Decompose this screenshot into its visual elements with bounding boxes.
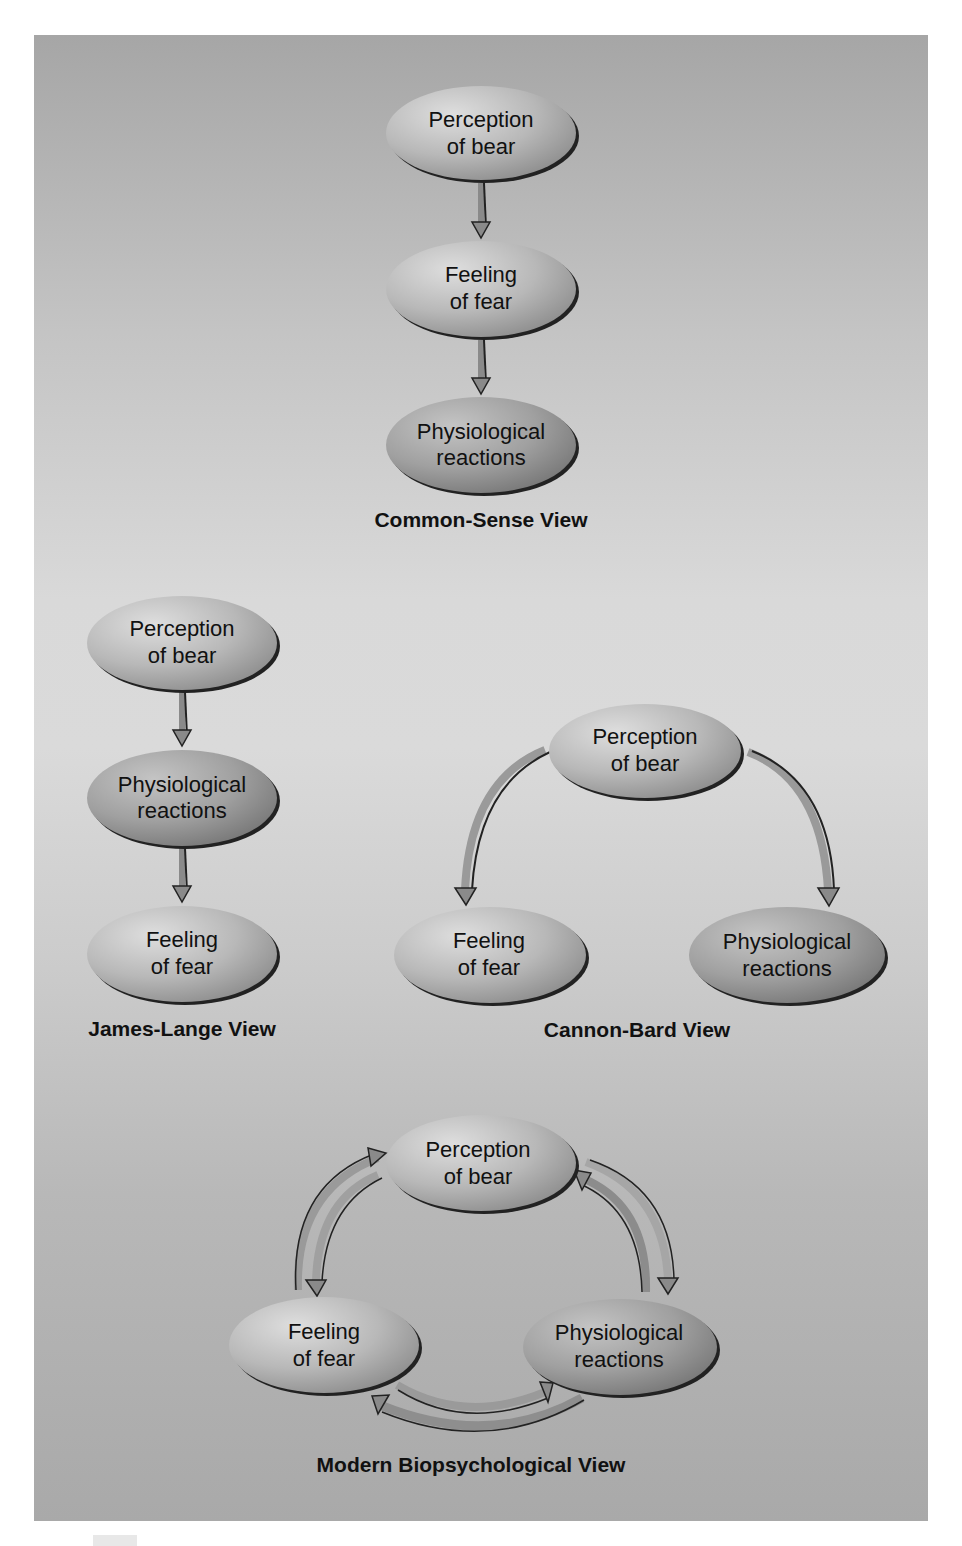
node-label-line2: of fear bbox=[293, 1346, 355, 1371]
node-label-line2: of fear bbox=[458, 955, 520, 980]
node-label-line1: Perception bbox=[592, 724, 697, 749]
view-title: Cannon-Bard View bbox=[544, 1018, 731, 1041]
node-feeling-of-fear: Feeling of fear bbox=[386, 241, 579, 340]
node-label-line1: Feeling bbox=[453, 928, 525, 953]
arrow-feeling-to-physiological bbox=[472, 340, 490, 394]
scan-artifact bbox=[93, 1535, 137, 1546]
node-label-line2: of bear bbox=[148, 643, 217, 668]
node-label-line2: of bear bbox=[444, 1164, 513, 1189]
node-label-line1: Physiological bbox=[555, 1320, 683, 1345]
node-label-line2: reactions bbox=[436, 445, 525, 470]
node-feeling-of-fear: Feeling of fear bbox=[394, 907, 589, 1006]
common-sense-view: Perception of bear Feeling of fear Physi… bbox=[374, 86, 588, 531]
node-physiological-reactions: Physiological reactions bbox=[87, 750, 280, 849]
node-label-line1: Physiological bbox=[723, 929, 851, 954]
arrow-perception-to-feeling bbox=[472, 183, 490, 238]
node-label-line2: of bear bbox=[447, 134, 516, 159]
node-feeling-of-fear: Feeling of fear bbox=[87, 906, 280, 1005]
node-label-line1: Perception bbox=[425, 1137, 530, 1162]
node-label-line1: Feeling bbox=[288, 1319, 360, 1344]
node-perception-of-bear: Perception of bear bbox=[386, 1115, 579, 1214]
arrow-perception-to-physiological bbox=[748, 751, 839, 906]
node-perception-of-bear: Perception of bear bbox=[386, 86, 579, 183]
cannon-bard-view: Perception of bear Feeling of fear Physi… bbox=[394, 704, 888, 1041]
arrow-perception-to-physiological bbox=[173, 692, 191, 746]
node-label-line2: of fear bbox=[151, 954, 213, 979]
node-label-line2: of fear bbox=[450, 289, 512, 314]
james-lange-view: Perception of bear Physiological reactio… bbox=[87, 596, 280, 1040]
node-physiological-reactions: Physiological reactions bbox=[689, 907, 888, 1006]
node-label-line1: Feeling bbox=[445, 262, 517, 287]
modern-biopsychological-view: Perception of bear Feeling of fear Physi… bbox=[229, 1115, 720, 1476]
node-perception-of-bear: Perception of bear bbox=[87, 596, 280, 693]
node-label-line1: Perception bbox=[129, 616, 234, 641]
arrow-perception-to-feeling bbox=[306, 1175, 382, 1296]
arrow-perception-to-feeling bbox=[455, 750, 550, 905]
node-label-line2: reactions bbox=[742, 956, 831, 981]
node-feeling-of-fear: Feeling of fear bbox=[229, 1297, 422, 1396]
view-title: James-Lange View bbox=[88, 1017, 276, 1040]
arrow-physiological-to-feeling bbox=[173, 848, 191, 902]
arrow-feeling-to-perception bbox=[296, 1148, 386, 1290]
node-label-line1: Physiological bbox=[118, 772, 246, 797]
node-label-line2: of bear bbox=[611, 751, 680, 776]
node-label-line2: reactions bbox=[574, 1347, 663, 1372]
node-label-line2: reactions bbox=[137, 798, 226, 823]
arrow-feeling-to-physiological bbox=[397, 1382, 553, 1413]
node-label-line1: Perception bbox=[428, 107, 533, 132]
node-label-line1: Physiological bbox=[417, 419, 545, 444]
view-title: Modern Biopsychological View bbox=[317, 1453, 627, 1476]
view-title: Common-Sense View bbox=[374, 508, 588, 531]
node-physiological-reactions: Physiological reactions bbox=[386, 397, 579, 496]
node-label-line1: Feeling bbox=[146, 927, 218, 952]
emotion-theories-diagram: Perception of bear Feeling of fear Physi… bbox=[0, 0, 962, 1546]
node-perception-of-bear: Perception of bear bbox=[549, 704, 744, 801]
